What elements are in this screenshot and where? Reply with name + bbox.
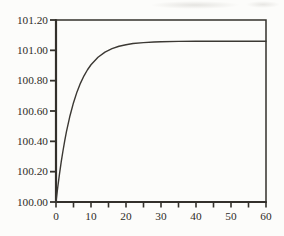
y-axis: 100.00100.20100.40100.60100.80101.00101.… [17, 14, 56, 208]
x-tick-label: 30 [155, 210, 167, 222]
x-tick-label: 0 [53, 210, 59, 222]
y-tick-label: 100.00 [17, 196, 48, 208]
scanned-line-chart-figure: 100.00100.20100.40100.60100.80101.00101.… [0, 0, 284, 236]
x-tick-label: 50 [225, 210, 237, 222]
y-tick-label: 100.40 [17, 135, 48, 147]
x-tick-label: 40 [190, 210, 202, 222]
y-tick-label: 100.20 [17, 165, 48, 177]
x-tick-label: 60 [260, 210, 272, 222]
plot-border [55, 19, 267, 203]
response-curve [56, 41, 266, 202]
x-axis: 0102030405060 [53, 202, 272, 222]
y-tick-label: 101.20 [17, 14, 48, 26]
x-tick-label: 20 [120, 210, 132, 222]
y-tick-label: 100.60 [17, 105, 48, 117]
y-tick-label: 101.00 [17, 44, 48, 56]
y-tick-label: 100.80 [17, 74, 48, 86]
line-chart: 100.00100.20100.40100.60100.80101.00101.… [0, 0, 284, 236]
x-tick-label: 10 [85, 210, 97, 222]
